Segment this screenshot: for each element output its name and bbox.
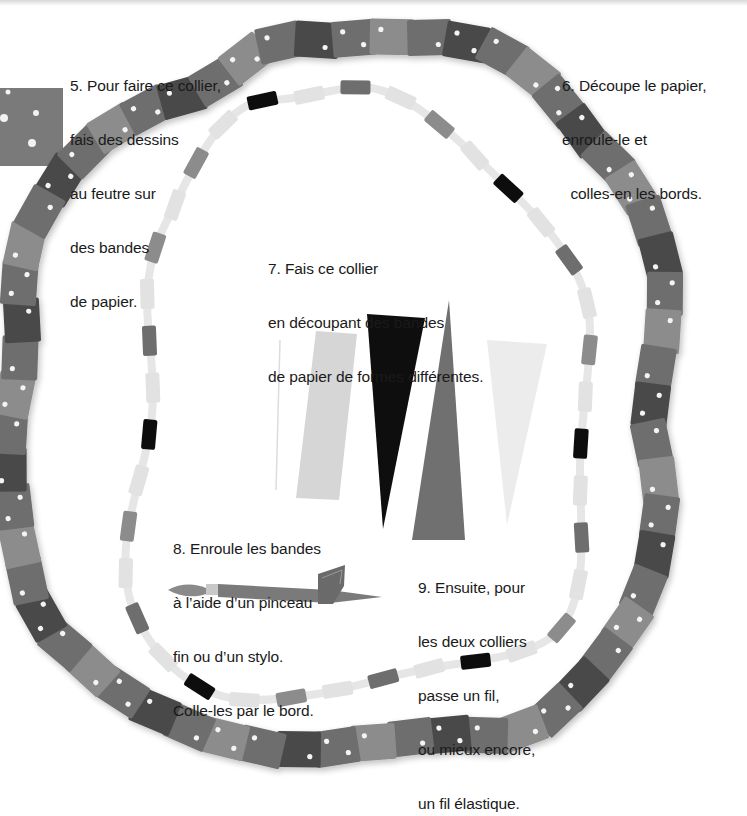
step-9-caption: 9. Ensuite, pour les deux colliers passe… <box>418 543 535 816</box>
caption-line: à l’aide d’un pinceau <box>173 594 321 612</box>
caption-line: au feutre sur <box>70 185 221 203</box>
caption-line: fais des dessins <box>70 131 221 149</box>
caption-line: 7. Fais ce collier <box>268 260 483 278</box>
dotted-paper-swatch <box>0 88 63 166</box>
caption-line: enroule-le et <box>562 131 706 149</box>
caption-line: 9. Ensuite, pour <box>418 579 535 597</box>
caption-line: des bandes <box>70 239 221 257</box>
pale-paper-triangle <box>487 340 547 525</box>
step-8-caption: 8. Enroule les bandes à l’aide d’un pinc… <box>173 504 321 738</box>
caption-line: de papier de formes différentes. <box>268 368 483 386</box>
caption-line: un fil élastique. <box>418 795 535 813</box>
step-5-caption: 5. Pour faire ce collier, fais des dessi… <box>70 41 221 329</box>
caption-line: en découpant des bandes <box>268 314 483 332</box>
caption-line: passe un fil, <box>418 687 535 705</box>
caption-line: colles-en les bords. <box>562 185 706 203</box>
caption-line: 8. Enroule les bandes <box>173 540 321 558</box>
caption-line: fin ou d’un stylo. <box>173 648 321 666</box>
caption-line: 6. Découpe le papier, <box>562 77 706 95</box>
caption-line: Colle-les par le bord. <box>173 702 321 720</box>
step-6-caption: 6. Découpe le papier, enroule-le et coll… <box>562 41 706 221</box>
caption-line: ou mieux encore, <box>418 741 535 759</box>
caption-line: de papier. <box>70 293 221 311</box>
caption-line: les deux colliers <box>418 633 535 651</box>
step-7-caption: 7. Fais ce collier en découpant des band… <box>268 224 483 404</box>
caption-line: 5. Pour faire ce collier, <box>70 77 221 95</box>
